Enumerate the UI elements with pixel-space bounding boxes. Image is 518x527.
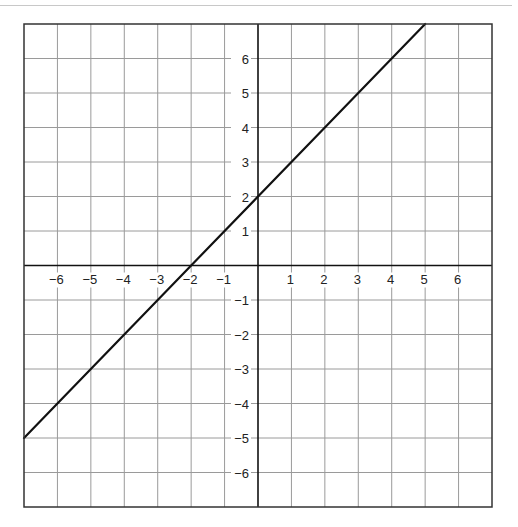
axes: [24, 24, 492, 507]
x-tick-label: −1: [216, 272, 231, 287]
x-tick-label: 6: [454, 272, 461, 287]
x-tick-label: −4: [116, 272, 131, 287]
x-tick-label: 1: [287, 272, 294, 287]
x-tick-label: −6: [49, 272, 64, 287]
x-tick-label: 3: [354, 272, 361, 287]
y-tick-label: 6: [242, 52, 249, 67]
x-tick-label: 2: [320, 272, 327, 287]
y-tick-label: 4: [242, 121, 249, 136]
y-tick-label: −2: [234, 328, 249, 343]
y-tick-label: 1: [242, 224, 249, 239]
coordinate-plane: −6−5−4−3−2−1123456 654321−1−2−3−4−5−6: [0, 0, 518, 527]
x-tick-label: −3: [149, 272, 164, 287]
x-axis-tick-labels: −6−5−4−3−2−1123456: [46, 272, 467, 288]
x-tick-label: 5: [421, 272, 428, 287]
x-tick-label: 4: [387, 272, 394, 287]
y-tick-label: −1: [234, 293, 249, 308]
y-tick-label: 3: [242, 155, 249, 170]
y-tick-label: 5: [242, 86, 249, 101]
y-tick-label: −4: [234, 397, 249, 412]
y-tick-label: −5: [234, 431, 249, 446]
x-tick-label: −5: [82, 272, 97, 287]
y-tick-label: −6: [234, 466, 249, 481]
x-tick-label: −2: [183, 272, 198, 287]
y-tick-label: −3: [234, 362, 249, 377]
y-tick-label: 2: [242, 190, 249, 205]
